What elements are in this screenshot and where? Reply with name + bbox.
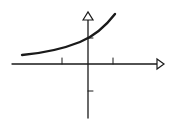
exponential-curve xyxy=(22,14,115,55)
graph-diagram xyxy=(0,0,169,125)
x-axis-arrow-icon xyxy=(157,59,164,69)
y-axis-arrow-icon xyxy=(83,12,93,20)
